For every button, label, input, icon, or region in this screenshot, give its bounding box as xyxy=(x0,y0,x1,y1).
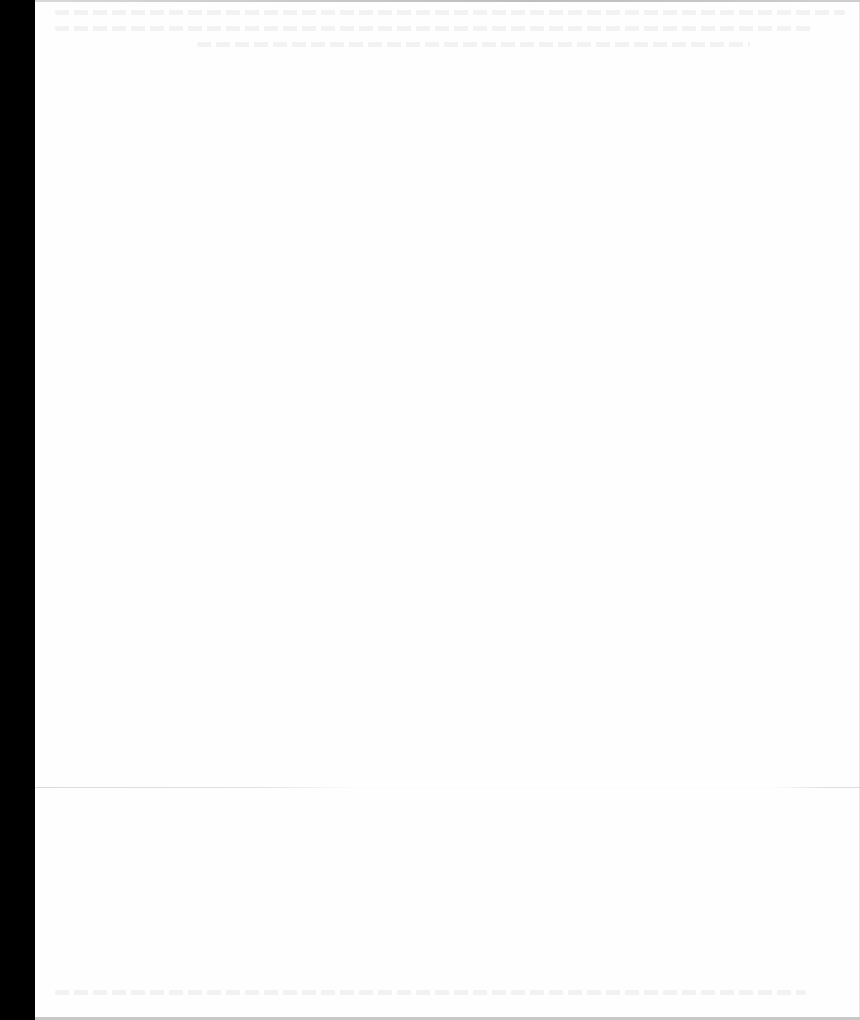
bleed-through-text-top xyxy=(55,10,845,58)
page-top-edge xyxy=(35,0,860,2)
scanned-page-image xyxy=(0,0,860,1020)
scanner-black-margin xyxy=(0,0,35,1020)
blank-page xyxy=(35,0,860,1020)
bleed-through-text-bottom xyxy=(55,990,845,1006)
page-crease-line xyxy=(35,787,860,788)
